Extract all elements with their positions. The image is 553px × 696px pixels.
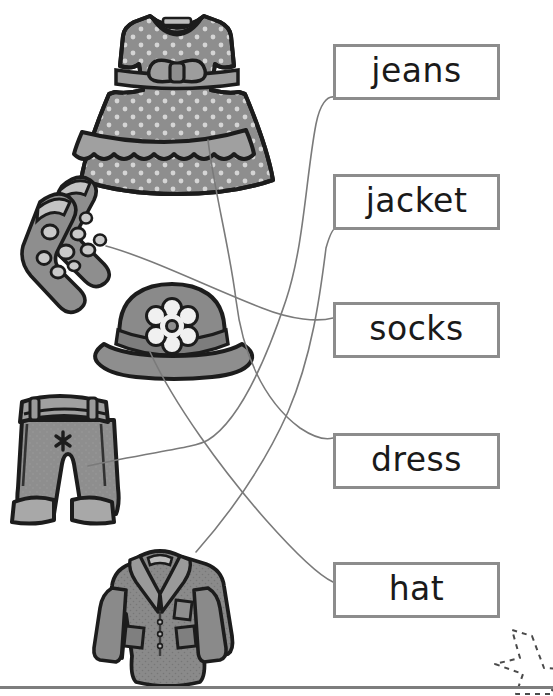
worksheet-page: jeans jacket socks dress hat [0,0,553,696]
page-bottom-rule [0,686,553,689]
decoration-layer [0,0,553,696]
dashed-star-outline-icon [495,630,553,694]
